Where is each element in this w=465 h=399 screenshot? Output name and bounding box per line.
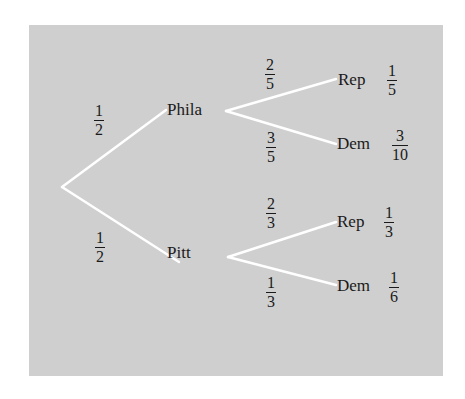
numerator: 1 [266, 275, 276, 292]
edge-pitt-dem [228, 257, 336, 285]
node-phila: Phila [167, 101, 202, 118]
edge-phila-rep [226, 79, 336, 111]
joint-prob-pitt-dem: 1 6 [389, 270, 399, 304]
numerator: 3 [395, 128, 405, 145]
prob-phila-dem: 3 5 [266, 130, 276, 164]
node-pitt-dem: Dem [337, 277, 370, 294]
denominator: 5 [266, 75, 274, 91]
node-phila-dem: Dem [337, 135, 370, 152]
edge-phila-dem [226, 111, 336, 144]
numerator: 3 [266, 130, 276, 147]
prob-root-phila: 1 2 [94, 103, 104, 137]
prob-pitt-dem: 1 3 [266, 275, 276, 309]
edge-pitt-rep [228, 222, 336, 257]
prob-pitt-rep: 2 3 [266, 196, 276, 230]
edge-root-phila [62, 110, 166, 187]
denominator: 6 [390, 288, 398, 304]
numerator: 1 [94, 103, 104, 120]
denominator: 2 [96, 248, 104, 264]
numerator: 1 [387, 63, 397, 80]
joint-prob-phila-dem: 3 10 [392, 128, 408, 162]
joint-prob-pitt-rep: 1 3 [384, 205, 394, 239]
denominator: 3 [385, 223, 393, 239]
denominator: 5 [388, 81, 396, 97]
denominator: 3 [267, 214, 275, 230]
denominator: 10 [392, 146, 408, 162]
denominator: 2 [95, 121, 103, 137]
joint-prob-phila-rep: 1 5 [387, 63, 397, 97]
tree-edges [0, 0, 465, 399]
node-phila-rep: Rep [338, 71, 365, 88]
prob-root-pitt: 1 2 [95, 230, 105, 264]
edge-root-pitt [62, 187, 179, 262]
node-pitt: Pitt [167, 244, 191, 261]
numerator: 1 [389, 270, 399, 287]
denominator: 5 [267, 148, 275, 164]
denominator: 3 [267, 293, 275, 309]
numerator: 2 [265, 57, 275, 74]
node-pitt-rep: Rep [337, 213, 364, 230]
numerator: 1 [384, 205, 394, 222]
numerator: 1 [95, 230, 105, 247]
prob-phila-rep: 2 5 [265, 57, 275, 91]
numerator: 2 [266, 196, 276, 213]
